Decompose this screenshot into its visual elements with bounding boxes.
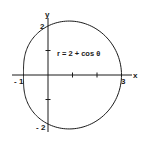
y-tick-label-2: 2: [40, 22, 45, 31]
x-axis-label: x: [133, 71, 138, 80]
equation-label: r = 2 + cos θ: [57, 49, 100, 58]
limacon-plot: y x 2 - 2 - 1 3 r = 2 + cos θ: [0, 0, 146, 141]
x-tick-label-neg1: - 1: [14, 77, 24, 86]
x-tick-label-3: 3: [121, 77, 126, 86]
y-tick-label-neg2: - 2: [36, 123, 46, 132]
y-axis-label: y: [45, 10, 50, 19]
